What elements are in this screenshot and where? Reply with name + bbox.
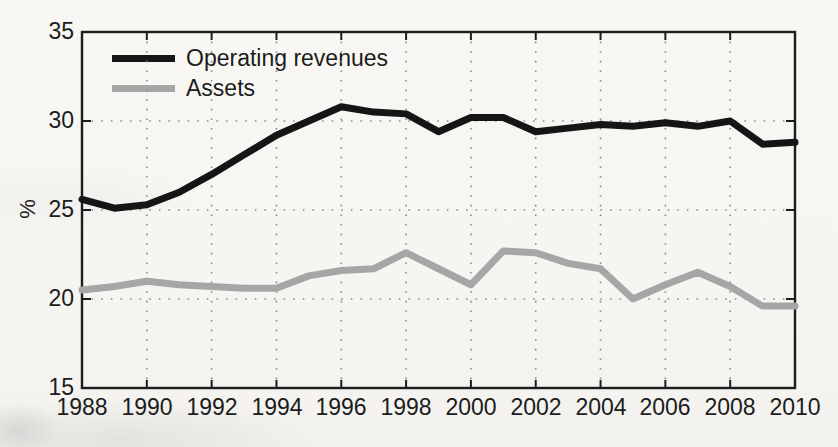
plot-area — [0, 0, 838, 447]
series-line-operating-revenues — [82, 107, 795, 208]
chart-figure: % 35 30 25 20 15 1988 1990 1992 1994 199… — [0, 0, 838, 447]
series-line-assets — [82, 251, 795, 306]
data-series-layer — [82, 107, 795, 306]
grid-lines — [82, 32, 795, 388]
